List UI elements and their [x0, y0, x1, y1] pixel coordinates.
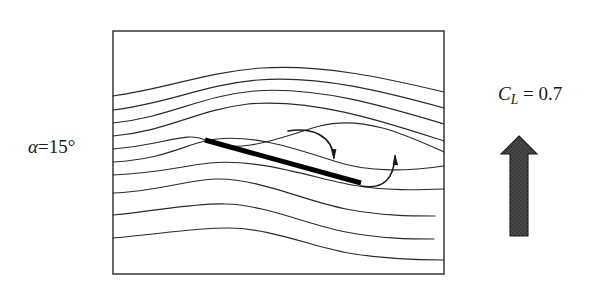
alpha-value: 15 [49, 136, 68, 157]
lift-vector-arrow [501, 136, 537, 236]
cl-symbol: C [498, 83, 511, 104]
angle-of-attack-label: α=15° [28, 137, 75, 156]
cl-subscript: L [511, 92, 519, 107]
alpha-symbol: α [28, 136, 38, 157]
figure-root: α=15° CL = 0.7 [0, 0, 596, 298]
cl-value: 0.7 [539, 83, 563, 104]
degree-symbol-icon: ° [68, 136, 76, 157]
alpha-equals-sign: = [38, 136, 49, 157]
flow-diagram-canvas [0, 0, 596, 298]
lift-vector-arrow [501, 136, 537, 236]
lift-coefficient-label: CL = 0.7 [498, 84, 562, 107]
cl-equals-sign: = [523, 83, 534, 104]
